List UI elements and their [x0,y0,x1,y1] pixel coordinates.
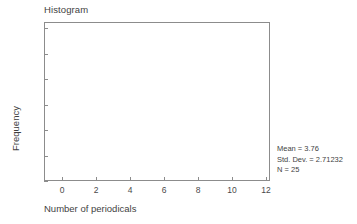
x-tick-mark [266,177,267,181]
x-tick-label: 6 [152,185,176,196]
x-tick-mark [232,177,233,181]
statistics-annotation: Mean = 3.76 Std. Dev. = 2.71232 N = 25 [277,144,343,176]
stat-mean: Mean = 3.76 [277,144,343,155]
plot-area [44,22,270,181]
x-tick-label: 12 [254,185,278,196]
stat-std-dev: Std. Dev. = 2.71232 [277,155,343,166]
y-axis-title: Frequency [10,84,21,174]
y-tick-mark [44,181,48,182]
x-tick-label: 0 [50,185,74,196]
x-tick-mark [62,177,63,181]
x-tick-mark [164,177,165,181]
x-tick-label: 10 [220,185,244,196]
histogram-chart: Histogram 0 1 2 3 4 5 6 [0,0,357,224]
plot-bars-container [45,23,269,180]
chart-title: Histogram [44,4,88,15]
x-tick-mark [198,177,199,181]
x-axis-title: Number of periodicals [44,203,270,214]
x-tick-label: 2 [84,185,108,196]
x-tick-label: 4 [118,185,142,196]
stat-n: N = 25 [277,165,343,176]
x-tick-mark [130,177,131,181]
x-tick-label: 8 [186,185,210,196]
x-tick-mark [96,177,97,181]
